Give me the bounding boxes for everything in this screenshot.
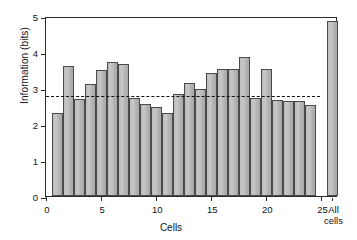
x-tick-label: 20 <box>262 204 273 215</box>
y-tick-label: 0 <box>33 192 38 204</box>
x-tick-all-cells: Allcells <box>332 198 333 201</box>
bar <box>151 107 162 196</box>
x-tick-label: 0 <box>44 204 49 215</box>
y-tick: 5 <box>41 18 46 19</box>
bar <box>74 99 85 196</box>
bar <box>140 104 151 196</box>
y-tick-label: 5 <box>33 12 38 24</box>
bar <box>162 113 173 196</box>
y-tick: 3 <box>41 90 46 91</box>
bar <box>239 57 250 196</box>
x-tick: 20 <box>266 196 267 201</box>
bar <box>206 73 217 196</box>
bar <box>52 113 63 196</box>
bar <box>250 98 261 196</box>
y-tick: 2 <box>41 126 46 127</box>
x-tick-label-all-cells: Allcells <box>320 204 346 226</box>
x-tick: 0 <box>46 196 47 201</box>
bar <box>272 100 283 196</box>
bar <box>283 101 294 196</box>
x-tick: 10 <box>156 196 157 201</box>
bar <box>85 84 96 196</box>
x-tick: 15 <box>211 196 212 201</box>
plot-area: 012345 0510152025Allcells <box>45 17 337 197</box>
y-tick-label: 4 <box>33 48 38 60</box>
x-tick: 25 <box>321 196 322 201</box>
bar <box>261 69 272 196</box>
bar <box>184 83 195 196</box>
bar-chart-figure: Information (bits) 012345 0510152025Allc… <box>0 0 357 240</box>
x-tick-label: 5 <box>99 204 104 215</box>
bar <box>294 101 305 196</box>
all-cells-label-line1: All <box>320 204 346 215</box>
y-tick-label: 1 <box>33 156 38 168</box>
y-tick: 1 <box>41 162 46 163</box>
x-axis-title: Cells <box>45 222 297 233</box>
bar <box>305 105 316 196</box>
x-tick: 5 <box>101 196 102 201</box>
y-tick-label: 3 <box>33 84 38 96</box>
bar <box>118 64 129 196</box>
bar <box>129 98 140 196</box>
reference-dashed-line <box>46 96 320 97</box>
bar <box>96 70 107 196</box>
bar <box>173 94 184 196</box>
x-tick-label: 15 <box>207 204 218 215</box>
bar <box>217 69 228 196</box>
bar <box>107 62 118 196</box>
bar <box>228 69 239 196</box>
all-cells-label-line2: cells <box>320 215 346 226</box>
y-tick-label: 2 <box>33 120 38 132</box>
y-tick: 4 <box>41 54 46 55</box>
bar <box>63 66 74 196</box>
bar-all-cells <box>327 21 338 196</box>
x-tick-label: 10 <box>152 204 163 215</box>
y-axis-title: Information (bits) <box>19 0 30 136</box>
bar <box>195 89 206 196</box>
